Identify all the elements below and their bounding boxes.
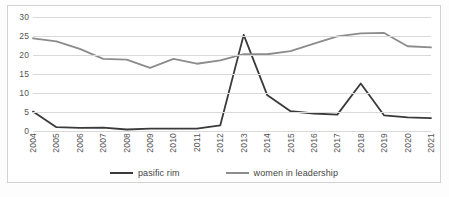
x-tick-label: 2019 [379,133,389,153]
gridline-5 [33,112,431,113]
series-line-women-in-leadership [33,33,431,68]
gridline-20 [33,55,431,56]
x-tick-label: 2017 [332,133,342,153]
legend-label: pasific rim [138,168,180,178]
plot-area [33,17,431,131]
chart-legend: pasific rimwomen in leadership [7,165,441,181]
x-tick-label: 2018 [356,133,366,153]
y-axis-tick-labels: 051015202530 [7,17,33,131]
legend-swatch-icon [110,172,133,175]
y-tick-label: 15 [19,69,29,79]
x-tick-label: 2005 [51,133,61,153]
x-tick-label: 2016 [309,133,319,153]
x-tick-label: 2020 [403,133,413,153]
x-axis-tick-labels: 2004200520062007200820092010201120122013… [33,133,431,165]
gridline-25 [33,36,431,37]
series-line-pasific-rim [33,35,431,130]
x-tick-label: 2015 [286,133,296,153]
y-tick-label: 25 [19,31,29,41]
x-tick-label: 2006 [75,133,85,153]
x-tick-label: 2012 [215,133,225,153]
x-tick-label: 2021 [426,133,436,153]
gridline-0 [33,131,431,132]
x-tick-label: 2007 [98,133,108,153]
legend-label: women in leadership [254,168,338,178]
legend-item[interactable]: pasific rim [110,168,180,178]
legend-item[interactable]: women in leadership [226,168,338,178]
x-tick-label: 2013 [239,133,249,153]
y-tick-label: 5 [24,107,29,117]
legend-swatch-icon [226,172,249,175]
x-tick-label: 2008 [122,133,132,153]
gridline-30 [33,17,431,18]
line-chart: 051015202530 200420052006200720082009201… [0,0,449,197]
gridline-15 [33,74,431,75]
x-tick-label: 2014 [262,133,272,153]
x-tick-label: 2011 [192,133,202,152]
y-tick-label: 20 [19,50,29,60]
x-tick-label: 2004 [28,133,38,153]
y-tick-label: 10 [19,88,29,98]
y-tick-label: 30 [19,12,29,22]
x-tick-label: 2009 [145,133,155,153]
gridline-10 [33,93,431,94]
x-tick-label: 2010 [168,133,178,153]
